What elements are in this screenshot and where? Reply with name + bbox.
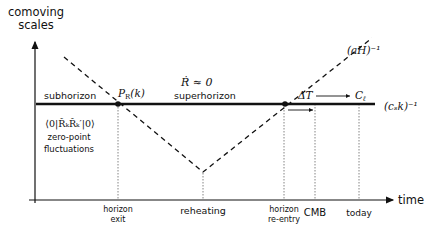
c-ell-label: Cℓ bbox=[355, 89, 366, 103]
time-tick-today: today bbox=[346, 208, 372, 218]
zero-point-expectation: ⟨0|R̂ₖR̂ₖ′|0⟩ bbox=[45, 118, 94, 130]
time-tick-horizon-reentry: horizon re-entry bbox=[268, 205, 300, 224]
svg-text:CMB: CMB bbox=[304, 207, 327, 218]
svg-text:re-entry: re-entry bbox=[268, 215, 300, 224]
horizon-diagram: comoving scales time subhorizon superhor… bbox=[0, 0, 433, 232]
power-spectrum-label: PR(k) bbox=[117, 87, 145, 101]
zero-point-label: zero-point bbox=[47, 132, 91, 142]
delta-t-label: ΔT bbox=[297, 89, 314, 101]
sound-horizon-label: (cₛk)⁻¹ bbox=[384, 100, 418, 112]
time-tick-horizon-exit: horizon exit bbox=[103, 205, 133, 224]
svg-text:reheating: reheating bbox=[180, 205, 226, 216]
horizon-reentry-point bbox=[282, 101, 288, 107]
horizon-exit-point bbox=[115, 101, 121, 107]
svg-text:today: today bbox=[346, 208, 372, 218]
svg-text:exit: exit bbox=[111, 215, 126, 224]
svg-text:horizon: horizon bbox=[103, 205, 133, 214]
superhorizon-label: superhorizon bbox=[174, 90, 236, 101]
fluctuations-label: fluctuations bbox=[44, 144, 95, 154]
svg-text:horizon: horizon bbox=[269, 205, 299, 214]
x-axis-label: time bbox=[398, 193, 424, 207]
time-tick-reheating: reheating bbox=[180, 205, 226, 216]
subhorizon-label: subhorizon bbox=[44, 90, 96, 101]
y-axis-label-line2: scales bbox=[18, 18, 54, 32]
hubble-radius-label: (aH)⁻¹ bbox=[347, 44, 380, 56]
conservation-label: Ṙ ≈ 0 bbox=[180, 75, 213, 89]
time-tick-cmb: CMB bbox=[304, 207, 327, 218]
y-axis-label-line1: comoving bbox=[8, 5, 64, 19]
